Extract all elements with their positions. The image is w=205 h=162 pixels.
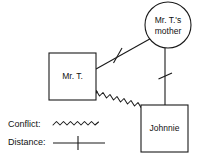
distance-line-mr-t-mother [96, 38, 152, 69]
johnnie-label: Johnnie [150, 123, 180, 133]
node-mr-t[interactable]: Mr. T. [49, 53, 96, 100]
legend-conflict-swatch [53, 122, 99, 126]
legend-item-distance: Distance: [8, 136, 105, 150]
link-mother-johnnie [159, 48, 173, 105]
legend-distance-label: Distance: [8, 137, 46, 147]
legend-item-conflict: Conflict: [8, 119, 99, 129]
conflict-wavy-line [97, 91, 142, 108]
node-johnnie[interactable]: Johnnie [141, 105, 188, 152]
link-mr-t-mother [96, 38, 152, 69]
mr-t-label: Mr. T. [62, 71, 83, 81]
node-mother[interactable]: Mr. T.'s mother [145, 2, 191, 48]
link-mr-t-johnnie-conflict [93, 89, 141, 108]
mother-label-line1: Mr. T.'s [155, 15, 182, 25]
legend: Conflict: Distance: [8, 119, 105, 150]
genogram-canvas: Mr. T.'s mother Mr. T. Johnnie Conflict:… [0, 0, 205, 162]
genogram-diagram: Mr. T.'s mother Mr. T. Johnnie Conflict:… [0, 0, 205, 162]
legend-conflict-label: Conflict: [8, 119, 41, 129]
mother-label-line2: mother [155, 26, 182, 36]
